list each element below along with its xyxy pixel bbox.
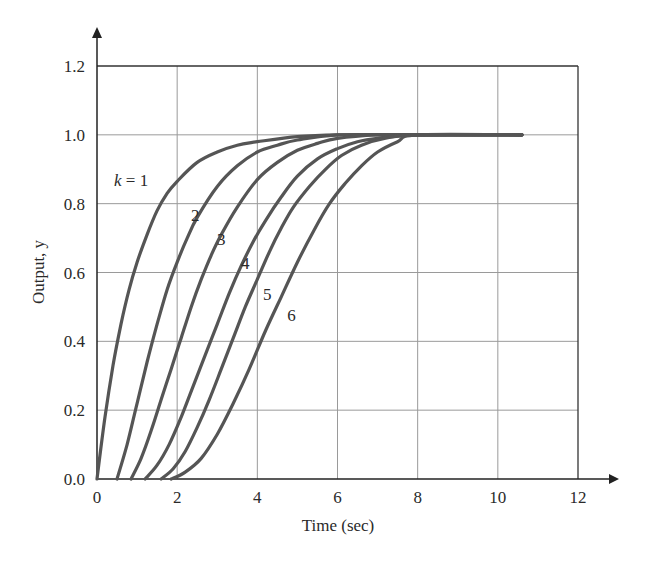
series-curve-k3: [131, 135, 522, 479]
y-tick-label: 0.8: [64, 195, 85, 214]
x-axis-title: Time (sec): [302, 516, 375, 535]
curve-label-k2: 2: [191, 206, 200, 225]
y-axis-title: Output, y: [29, 239, 48, 304]
series-curve-k4: [145, 135, 522, 479]
y-tick-label: 0.6: [64, 264, 85, 283]
step-response-chart: k = 123456 0246810120.00.20.40.60.81.01.…: [0, 0, 647, 562]
x-tick-label: 0: [93, 488, 102, 507]
y-tick-label: 0.0: [64, 470, 85, 489]
x-tick-label: 4: [253, 488, 262, 507]
y-axis-arrow-icon: [92, 27, 102, 38]
axes: [92, 27, 619, 484]
curve-label-k6: 6: [287, 306, 296, 325]
x-tick-label: 6: [333, 488, 342, 507]
grid-lines: [97, 66, 578, 479]
x-tick-label: 12: [570, 488, 587, 507]
curve-label-k3: 3: [217, 230, 226, 249]
x-tick-label: 10: [489, 488, 506, 507]
y-tick-label: 0.2: [64, 401, 85, 420]
y-tick-label: 1.0: [64, 126, 85, 145]
tick-labels: 0246810120.00.20.40.60.81.01.2: [64, 57, 587, 507]
y-tick-label: 1.2: [64, 57, 85, 76]
x-axis-arrow-icon: [609, 474, 619, 484]
y-tick-label: 0.4: [64, 332, 86, 351]
series-curves: [97, 134, 522, 479]
x-tick-label: 8: [413, 488, 422, 507]
curve-label-k4: 4: [241, 254, 250, 273]
curve-label-k5: 5: [263, 285, 272, 304]
curve-label-k1: k = 1: [114, 171, 148, 190]
x-tick-label: 2: [173, 488, 182, 507]
